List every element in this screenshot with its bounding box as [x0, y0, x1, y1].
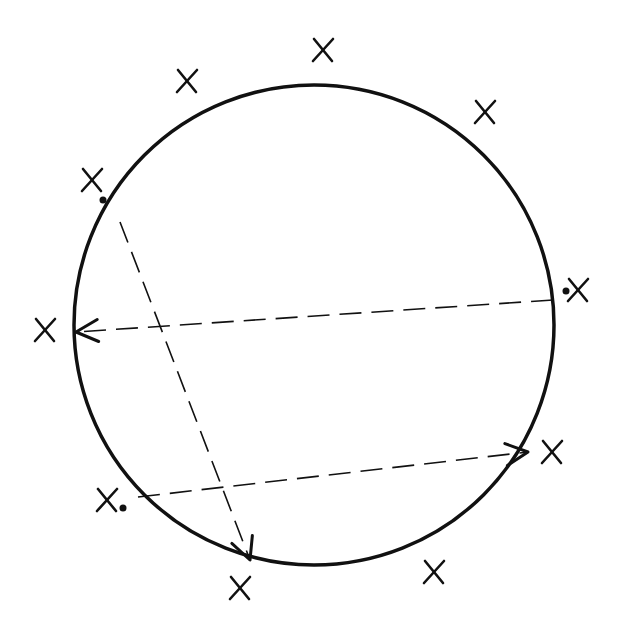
x-mark [475, 101, 495, 123]
x-mark [230, 577, 250, 599]
chord-arrow [138, 444, 528, 497]
chord-arrow [120, 222, 252, 560]
x-mark [177, 70, 197, 92]
diagram-canvas [0, 0, 626, 632]
circle-outline [74, 85, 554, 565]
x-mark [313, 39, 333, 61]
x-marks [35, 39, 588, 599]
x-mark [82, 169, 107, 204]
point-dot [120, 505, 127, 512]
dashed-chords [76, 222, 553, 560]
point-dot [100, 197, 107, 204]
x-mark [563, 279, 589, 301]
point-dot [563, 288, 570, 295]
x-mark [35, 319, 55, 341]
x-mark [424, 561, 444, 583]
x-mark [542, 441, 562, 463]
x-mark [97, 489, 127, 512]
chord-arrow [76, 300, 553, 342]
main-circle [74, 85, 554, 565]
